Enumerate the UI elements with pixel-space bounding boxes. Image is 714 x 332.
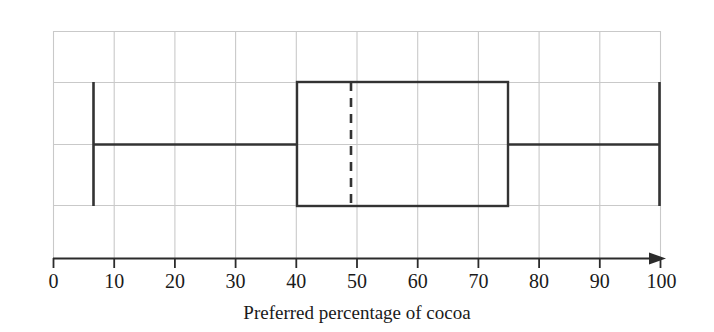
tick-label-90: 90 [590,270,610,292]
tick-label-30: 30 [226,270,246,292]
tick-label-80: 80 [529,270,549,292]
tick-label-60: 60 [408,270,428,292]
tick-label-70: 70 [468,270,488,292]
tick-label-40: 40 [286,270,306,292]
boxplot-canvas: 0 10 20 30 40 50 60 70 80 90 100 Preferr… [0,0,714,332]
boxplot-figure: 0 10 20 30 40 50 60 70 80 90 100 Preferr… [0,0,714,332]
tick-label-0: 0 [49,270,59,292]
tick-label-10: 10 [104,270,124,292]
tick-label-100: 100 [647,270,677,292]
tick-label-20: 20 [165,270,185,292]
tick-label-50: 50 [347,270,367,292]
x-axis-tick-labels: 0 10 20 30 40 50 60 70 80 90 100 [49,270,677,292]
x-axis-title: Preferred percentage of cocoa [243,302,471,323]
